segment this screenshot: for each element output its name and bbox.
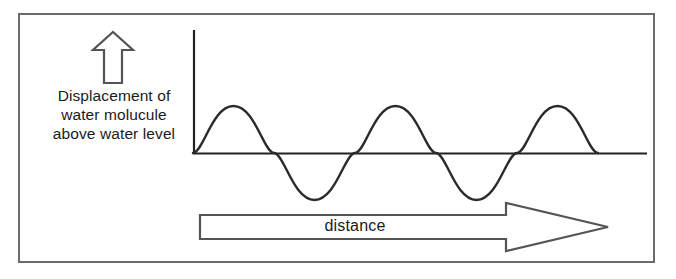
y-axis-caption-line-3: above water level [34,124,194,143]
displacement-up-arrow [93,32,133,83]
y-axis-caption-line-1: Displacement of [34,86,194,105]
y-axis-caption: Displacement of water molucule above wat… [34,86,194,143]
y-axis-caption-line-2: water molucule [34,105,194,124]
wave-diagram-figure: Displacement of water molucule above wat… [0,0,676,279]
x-axis-caption: distance [200,214,510,237]
